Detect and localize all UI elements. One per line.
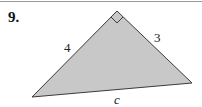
right-leg-label: 3 [154,30,161,45]
right-triangle [32,11,192,97]
left-leg-label: 4 [64,40,71,55]
triangle-diagram: 4 3 c [0,0,202,107]
hypotenuse-label: c [114,92,120,107]
